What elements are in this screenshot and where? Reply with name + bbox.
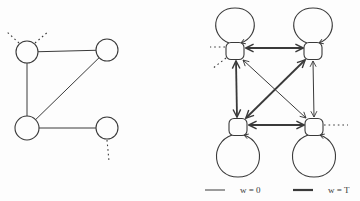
graph-edge — [27, 50, 107, 128]
transition-edge-w-T — [236, 61, 237, 117]
self-loop — [216, 135, 259, 177]
dotted-stub — [107, 140, 109, 161]
graph-edge — [27, 50, 107, 52]
graph-node — [96, 117, 118, 139]
dotted-stub — [35, 31, 49, 43]
graph-figure: w = 0w = T — [0, 0, 360, 201]
state-node — [304, 43, 322, 60]
undirected-graph — [6, 31, 118, 161]
legend-label: w = T — [328, 185, 350, 195]
self-loop — [292, 135, 335, 177]
state-node — [305, 119, 323, 136]
dotted-stub — [6, 31, 19, 43]
graph-node — [15, 116, 39, 140]
figure-canvas: w = 0w = T — [0, 0, 360, 201]
transition-graph — [210, 8, 348, 177]
legend-label: w = 0 — [240, 185, 261, 195]
dotted-stub — [212, 58, 226, 69]
transition-edge-w-0 — [313, 61, 314, 117]
state-node — [226, 43, 244, 60]
self-loop — [216, 8, 255, 43]
legend: w = 0w = T — [205, 185, 350, 195]
state-node — [229, 119, 247, 136]
self-loop — [294, 8, 333, 43]
graph-node — [16, 41, 38, 63]
graph-node — [96, 39, 118, 61]
